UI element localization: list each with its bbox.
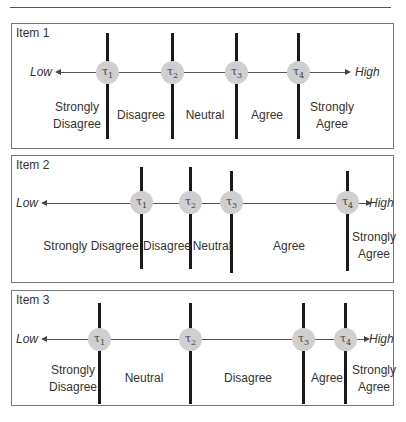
- panel-title: Item 3: [16, 293, 49, 307]
- category-label: Neutral: [186, 107, 225, 124]
- low-label: Low: [16, 196, 38, 210]
- category-label: StronglyDisagree: [53, 99, 101, 133]
- threshold-line: [106, 33, 109, 139]
- category-label: StronglyAgree: [352, 362, 396, 396]
- category-label: Disagree: [117, 107, 165, 124]
- panel-title: Item 2: [16, 158, 49, 172]
- threshold-line: [297, 33, 300, 139]
- threshold-tau-4: τ4: [336, 191, 359, 214]
- category-label: Agree: [311, 370, 343, 387]
- threshold-line: [189, 303, 192, 404]
- threshold-tau-3: τ3: [220, 191, 243, 214]
- threshold-line: [344, 303, 347, 404]
- category-label: Strongly Disagree: [43, 238, 138, 255]
- threshold-tau-1: τ1: [96, 61, 119, 84]
- threshold-tau-4: τ4: [287, 61, 310, 84]
- threshold-line: [346, 171, 349, 271]
- threshold-line: [302, 303, 305, 404]
- arrow-right-icon: [345, 69, 351, 75]
- threshold-tau-2: τ2: [179, 328, 202, 351]
- panel-item-2: Item 2 Low High τ1 τ2 τ3 τ4 Strongly Dis…: [11, 155, 394, 283]
- top-rule: [10, 7, 391, 8]
- threshold-line: [98, 303, 101, 404]
- category-label: Agree: [251, 107, 283, 124]
- threshold-line: [235, 33, 238, 139]
- panel-title: Item 1: [16, 26, 49, 40]
- category-label: StronglyAgree: [352, 229, 396, 263]
- panel-item-1: Item 1 Low High τ1 τ2 τ3 τ4 StronglyDisa…: [11, 23, 394, 149]
- threshold-tau-1: τ1: [88, 328, 111, 351]
- threshold-tau-3: τ3: [292, 328, 315, 351]
- panel-item-3: Item 3 Low High τ1 τ2 τ3 τ4 StronglyDisa…: [11, 290, 394, 406]
- threshold-tau-3: τ3: [225, 61, 248, 84]
- high-label: High: [369, 332, 394, 346]
- high-label: High: [355, 65, 380, 79]
- threshold-tau-4: τ4: [334, 328, 357, 351]
- category-label: StronglyAgree: [310, 99, 354, 133]
- threshold-line: [230, 171, 233, 273]
- category-label: Disagree: [143, 238, 191, 255]
- low-label: Low: [16, 332, 38, 346]
- low-label: Low: [30, 65, 52, 79]
- category-label: Neutral: [193, 238, 232, 255]
- category-label: StronglyDisagree: [49, 362, 97, 396]
- threshold-tau-2: τ2: [179, 191, 202, 214]
- axis-line: [46, 203, 366, 204]
- high-label: High: [369, 196, 394, 210]
- category-label: Disagree: [224, 370, 272, 387]
- category-label: Neutral: [125, 370, 164, 387]
- threshold-tau-1: τ1: [130, 191, 153, 214]
- threshold-tau-2: τ2: [161, 61, 184, 84]
- category-label: Agree: [273, 238, 305, 255]
- threshold-line: [171, 33, 174, 139]
